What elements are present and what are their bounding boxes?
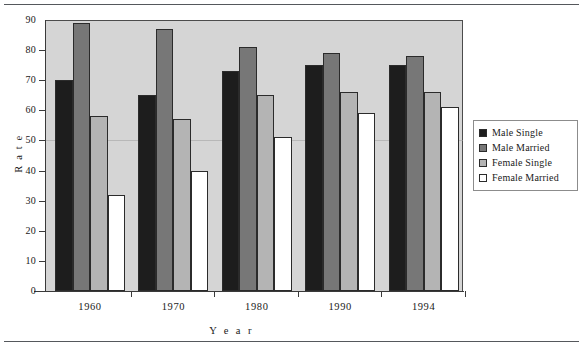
legend-item[interactable]: Male Single: [479, 125, 572, 140]
y-axis-tick: [39, 291, 46, 292]
bar: [90, 116, 108, 291]
x-axis-tick: [465, 291, 466, 297]
chart-legend: Male SingleMale MarriedFemale SingleFema…: [473, 120, 578, 191]
y-axis-tick-label-text: 60: [2, 105, 36, 115]
bar: [222, 71, 240, 291]
legend-swatch-icon: [479, 144, 487, 152]
bar: [274, 137, 292, 291]
bar: [323, 53, 341, 291]
bar-chart-figure: 0102030405060708090 19601970198019901994…: [0, 0, 583, 352]
legend-item[interactable]: Female Single: [479, 155, 572, 170]
y-axis-tick: [39, 261, 46, 262]
y-axis-tick: [39, 231, 46, 232]
bar: [305, 65, 323, 291]
y-axis-tick-label: 60: [0, 105, 36, 115]
x-axis-tick-label: 1990: [310, 301, 370, 313]
y-axis-tick: [39, 171, 46, 172]
y-axis-tick-label-text: 20: [2, 226, 36, 236]
legend-item-label: Female Married: [492, 172, 559, 183]
bar: [441, 107, 459, 291]
y-axis-tick-label-text: 30: [2, 196, 36, 206]
y-axis-tick-label: 0: [0, 286, 36, 296]
y-axis-tick-label-text: 0: [2, 286, 36, 296]
bar: [424, 92, 442, 291]
legend-swatch-icon: [479, 159, 487, 167]
bar: [191, 171, 209, 291]
legend-item-label: Male Married: [492, 142, 550, 153]
y-axis-tick-label: 70: [0, 75, 36, 85]
bar: [358, 113, 376, 291]
x-axis-tick-label: 1970: [143, 301, 203, 313]
x-axis-tick-label: 1980: [227, 301, 287, 313]
bar: [173, 119, 191, 291]
x-axis-tick: [381, 291, 382, 297]
y-axis-tick-label: 80: [0, 45, 36, 55]
x-axis-line: [34, 291, 464, 292]
legend-item-label: Female Single: [492, 157, 552, 168]
legend-item-label: Male Single: [492, 127, 543, 138]
x-axis-tick: [214, 291, 215, 297]
bar: [156, 29, 174, 291]
y-axis-line: [45, 20, 46, 292]
x-axis-tick: [298, 291, 299, 297]
legend-swatch-icon: [479, 129, 487, 137]
bar: [73, 23, 91, 291]
y-axis-tick: [39, 140, 46, 141]
x-axis-title: Y e a r: [0, 325, 463, 336]
bar: [108, 195, 126, 291]
bar: [257, 95, 275, 291]
y-axis-tick-label-text: 90: [2, 15, 36, 25]
bar: [340, 92, 358, 291]
y-axis-tick-label: 30: [0, 196, 36, 206]
bar: [406, 56, 424, 291]
y-axis-tick: [39, 50, 46, 51]
bar: [138, 95, 156, 291]
y-axis-tick-label-text: 70: [2, 75, 36, 85]
y-axis-tick-label: 10: [0, 256, 36, 266]
bar: [239, 47, 257, 291]
x-axis-tick-label: 1994: [394, 301, 454, 313]
y-axis-title: R a t e: [13, 124, 24, 184]
x-axis-tick-label: 1960: [60, 301, 120, 313]
y-axis-tick: [39, 80, 46, 81]
legend-item[interactable]: Male Married: [479, 140, 572, 155]
bar: [389, 65, 407, 291]
y-axis-tick-label: 20: [0, 226, 36, 236]
legend-item[interactable]: Female Married: [479, 170, 572, 185]
y-axis-tick: [39, 110, 46, 111]
bar: [55, 80, 73, 291]
y-axis-tick-label-text: 10: [2, 256, 36, 266]
y-axis-tick: [39, 201, 46, 202]
y-axis-tick-label-text: 80: [2, 45, 36, 55]
y-axis-tick-label: 90: [0, 15, 36, 25]
x-axis-tick: [131, 291, 132, 297]
legend-swatch-icon: [479, 174, 487, 182]
